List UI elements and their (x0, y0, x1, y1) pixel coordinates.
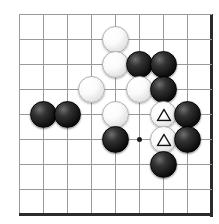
white-stone[interactable] (150, 101, 177, 128)
white-stone[interactable] (126, 76, 153, 103)
white-stone[interactable] (150, 126, 177, 153)
go-board[interactable] (0, 0, 219, 224)
black-stone[interactable] (102, 126, 129, 153)
black-stone[interactable] (174, 126, 201, 153)
star-point (137, 137, 142, 142)
white-stone[interactable] (78, 76, 105, 103)
black-stone[interactable] (30, 101, 57, 128)
black-stone[interactable] (150, 151, 177, 178)
grid-line-horizontal (19, 189, 212, 190)
board-edge-bottom (19, 213, 213, 216)
black-stone[interactable] (174, 101, 201, 128)
black-stone[interactable] (54, 101, 81, 128)
board-edge-right (210, 14, 213, 217)
black-stone[interactable] (126, 51, 153, 78)
white-stone[interactable] (102, 101, 129, 128)
grid-line-horizontal (19, 164, 212, 165)
triangle-marker-icon (156, 109, 171, 122)
triangle-marker-icon (156, 134, 171, 147)
grid-line-horizontal (19, 89, 212, 90)
go-diagram (0, 0, 219, 224)
white-stone[interactable] (102, 26, 129, 53)
black-stone[interactable] (150, 51, 177, 78)
black-stone[interactable] (150, 76, 177, 103)
white-stone[interactable] (102, 51, 129, 78)
grid-line-horizontal (19, 14, 212, 15)
